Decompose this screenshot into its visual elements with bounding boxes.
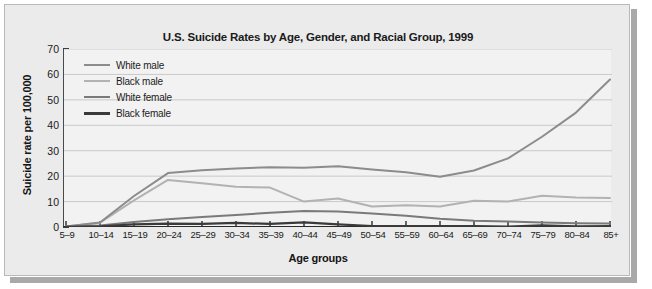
x-axis-title: Age groups <box>5 252 631 264</box>
x-tick-label-14: 75–79 <box>531 229 556 240</box>
figure-shadow-right <box>631 9 637 281</box>
x-tick-label-5: 30–34 <box>225 229 250 240</box>
legend-swatch-icon <box>84 80 110 83</box>
x-tick-label-8: 45–49 <box>327 229 352 240</box>
x-tick-label-3: 20–24 <box>157 229 182 240</box>
y-tick-label-0: 0 <box>17 221 59 233</box>
x-tick-label-9: 50–54 <box>361 229 386 240</box>
x-tick-label-10: 55–59 <box>395 229 420 240</box>
y-axis-tick-labels: 010203040506070 <box>13 49 59 227</box>
x-tick-label-0: 5–9 <box>60 229 75 240</box>
x-axis-tick-labels: 5–910–1415–1920–2425–2930–3435–3940–4445… <box>63 229 615 245</box>
x-tick-label-16: 85+ <box>603 229 618 240</box>
y-tick-label-10: 10 <box>17 196 59 208</box>
legend-swatch-icon <box>84 112 110 115</box>
legend-label: White female <box>116 92 172 103</box>
legend-item-black-female[interactable]: Black female <box>84 105 208 121</box>
x-tick-label-6: 35–39 <box>259 229 284 240</box>
chart-title: U.S. Suicide Rates by Age, Gender, and R… <box>5 31 631 43</box>
y-tick-label-70: 70 <box>17 43 59 55</box>
x-tick-label-1: 10–14 <box>89 229 114 240</box>
legend-item-white-female[interactable]: White female <box>84 89 208 105</box>
chart-figure-frame: U.S. Suicide Rates by Age, Gender, and R… <box>4 4 630 276</box>
y-tick-label-60: 60 <box>17 68 59 80</box>
y-tick-label-50: 50 <box>17 94 59 106</box>
legend-label: White male <box>116 60 164 71</box>
legend-label: Black female <box>116 108 171 119</box>
plot-area: White maleBlack maleWhite femaleBlack fe… <box>63 49 611 227</box>
legend-swatch-icon <box>84 64 110 67</box>
chart-legend: White maleBlack maleWhite femaleBlack fe… <box>84 57 208 121</box>
figure-shadow-bottom <box>10 277 637 283</box>
x-tick-label-2: 15–19 <box>123 229 148 240</box>
legend-swatch-icon <box>84 96 110 99</box>
x-tick-label-11: 60–64 <box>429 229 454 240</box>
x-tick-label-7: 40–44 <box>293 229 318 240</box>
legend-item-white-male[interactable]: White male <box>84 57 208 73</box>
x-tick-label-12: 65–69 <box>463 229 488 240</box>
legend-item-black-male[interactable]: Black male <box>84 73 208 89</box>
x-tick-label-4: 25–29 <box>191 229 216 240</box>
y-tick-label-40: 40 <box>17 119 59 131</box>
legend-label: Black male <box>116 76 163 87</box>
y-tick-label-30: 30 <box>17 145 59 157</box>
x-tick-label-15: 80–84 <box>565 229 590 240</box>
x-tick-label-13: 70–74 <box>497 229 522 240</box>
y-tick-label-20: 20 <box>17 170 59 182</box>
